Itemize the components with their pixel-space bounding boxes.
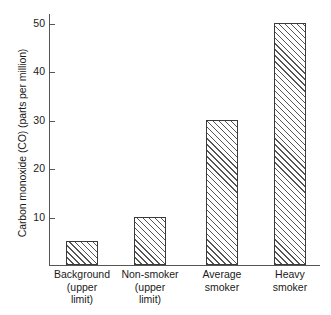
y-tick-50: 50 — [49, 24, 55, 25]
y-axis-title: Carbon monoxide (CO) (parts per million) — [14, 0, 30, 288]
y-tick-mark — [49, 169, 55, 170]
y-tick-label: 50 — [33, 17, 45, 30]
bar-heavy-smoker — [274, 23, 306, 265]
y-tick-label: 20 — [33, 162, 45, 175]
y-tick-mark — [49, 24, 55, 25]
y-tick-label: 30 — [33, 114, 45, 127]
bar-chart-figure: Carbon monoxide (CO) (parts per million)… — [0, 0, 331, 315]
y-tick-30: 30 — [49, 121, 55, 122]
bar-average-smoker — [206, 120, 238, 265]
y-axis-line — [49, 14, 50, 266]
y-tick-mark — [49, 72, 55, 73]
x-label-heavy-smoker: Heavy smoker — [245, 268, 331, 293]
y-tick-label: 10 — [33, 211, 45, 224]
x-axis-line — [49, 265, 320, 266]
y-tick-20: 20 — [49, 169, 55, 170]
bar-non-smoker — [134, 217, 166, 266]
y-tick-40: 40 — [49, 72, 55, 73]
y-tick-mark — [49, 218, 55, 219]
y-tick-label: 40 — [33, 65, 45, 78]
plot-area: 50 40 30 20 10 Background (upper limit) … — [49, 14, 320, 266]
y-tick-mark — [49, 121, 55, 122]
y-tick-10: 10 — [49, 218, 55, 219]
bar-background — [66, 241, 98, 265]
